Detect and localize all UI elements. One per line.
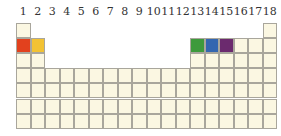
element-cell-g18-p4 [263, 68, 278, 83]
group-label-15: 15 [219, 4, 234, 20]
element-cell-g6-p4 [89, 68, 104, 83]
element-cell-g10-p4 [147, 68, 162, 83]
element-cell-g17-p6 [248, 99, 263, 114]
element-cell-g12-p6 [176, 99, 191, 114]
element-cell-g1-p2 [16, 38, 31, 53]
element-cell-g11-p7 [161, 114, 176, 129]
element-cell-g14-p2 [205, 38, 220, 53]
element-cell-g5-p5 [74, 83, 89, 98]
element-cell-g4-p6 [60, 99, 75, 114]
element-cell-g4-p7 [60, 114, 75, 129]
group-label-16: 16 [234, 4, 249, 20]
element-cell-g15-p6 [219, 99, 234, 114]
element-cell-g17-p3 [248, 53, 263, 68]
element-cell-g1-p1 [16, 23, 31, 38]
element-cell-g9-p7 [132, 114, 147, 129]
element-cell-g17-p4 [248, 68, 263, 83]
element-cell-g1-p3 [16, 53, 31, 68]
group-label-9: 9 [132, 4, 147, 20]
element-cell-g13-p3 [190, 53, 205, 68]
group-label-8: 8 [118, 4, 133, 20]
element-cell-g9-p4 [132, 68, 147, 83]
element-cell-g11-p4 [161, 68, 176, 83]
element-cell-g16-p7 [234, 114, 249, 129]
element-cell-g11-p5 [161, 83, 176, 98]
element-cell-g2-p3 [31, 53, 46, 68]
element-cell-g12-p5 [176, 83, 191, 98]
element-cell-g7-p4 [103, 68, 118, 83]
element-cell-g14-p7 [205, 114, 220, 129]
element-cell-g8-p4 [118, 68, 133, 83]
element-cell-g8-p5 [118, 83, 133, 98]
element-cell-g5-p7 [74, 114, 89, 129]
element-cell-g15-p4 [219, 68, 234, 83]
element-cell-g18-p5 [263, 83, 278, 98]
element-cell-g16-p5 [234, 83, 249, 98]
element-cell-g7-p5 [103, 83, 118, 98]
element-cell-g18-p6 [263, 99, 278, 114]
element-cell-g14-p3 [205, 53, 220, 68]
element-cell-g10-p6 [147, 99, 162, 114]
element-cell-g13-p6 [190, 99, 205, 114]
element-cell-g6-p7 [89, 114, 104, 129]
element-cell-g6-p6 [89, 99, 104, 114]
element-cell-g10-p5 [147, 83, 162, 98]
element-cell-g12-p7 [176, 114, 191, 129]
element-cell-g13-p4 [190, 68, 205, 83]
element-cell-g2-p2 [31, 38, 46, 53]
element-cell-g2-p7 [31, 114, 46, 129]
element-cell-g2-p5 [31, 83, 46, 98]
element-cell-g1-p5 [16, 83, 31, 98]
element-cell-g2-p4 [31, 68, 46, 83]
group-label-18: 18 [263, 4, 278, 20]
element-cell-g7-p6 [103, 99, 118, 114]
element-cell-g17-p7 [248, 114, 263, 129]
element-cell-g18-p2 [263, 38, 278, 53]
element-cell-g1-p6 [16, 99, 31, 114]
element-cell-g13-p2 [190, 38, 205, 53]
element-cell-g18-p3 [263, 53, 278, 68]
element-cell-g8-p7 [118, 114, 133, 129]
element-cell-g16-p3 [234, 53, 249, 68]
element-cell-g5-p6 [74, 99, 89, 114]
element-cell-g10-p7 [147, 114, 162, 129]
element-cell-g16-p4 [234, 68, 249, 83]
element-cell-g3-p5 [45, 83, 60, 98]
element-cell-g16-p2 [234, 38, 249, 53]
group-label-11: 11 [161, 4, 176, 20]
element-cell-g5-p4 [74, 68, 89, 83]
element-cell-g18-p7 [263, 114, 278, 129]
group-number-labels: 123456789101112131415161718 [16, 4, 277, 20]
element-cell-g9-p6 [132, 99, 147, 114]
element-cell-g3-p7 [45, 114, 60, 129]
group-label-13: 13 [190, 4, 205, 20]
element-cell-g15-p3 [219, 53, 234, 68]
element-cell-g2-p6 [31, 99, 46, 114]
element-cell-g16-p6 [234, 99, 249, 114]
group-label-7: 7 [103, 4, 118, 20]
group-label-6: 6 [89, 4, 104, 20]
element-cell-g11-p6 [161, 99, 176, 114]
element-cell-g8-p6 [118, 99, 133, 114]
group-label-17: 17 [248, 4, 263, 20]
element-cell-g13-p7 [190, 114, 205, 129]
element-cell-g17-p5 [248, 83, 263, 98]
group-label-5: 5 [74, 4, 89, 20]
element-cell-g17-p2 [248, 38, 263, 53]
element-cell-g9-p5 [132, 83, 147, 98]
group-label-4: 4 [60, 4, 75, 20]
group-label-1: 1 [16, 4, 31, 20]
element-cell-g1-p7 [16, 114, 31, 129]
group-label-14: 14 [205, 4, 220, 20]
element-cell-g4-p5 [60, 83, 75, 98]
group-label-12: 12 [176, 4, 191, 20]
element-cell-g15-p2 [219, 38, 234, 53]
element-cell-g18-p1 [263, 23, 278, 38]
element-cell-g3-p4 [45, 68, 60, 83]
element-cell-g14-p6 [205, 99, 220, 114]
element-cell-g15-p7 [219, 114, 234, 129]
element-cell-g1-p4 [16, 68, 31, 83]
element-cell-g15-p5 [219, 83, 234, 98]
element-cell-g14-p5 [205, 83, 220, 98]
element-cell-g4-p4 [60, 68, 75, 83]
